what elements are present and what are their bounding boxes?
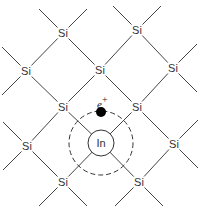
si-atom-label: Si — [21, 141, 33, 152]
si-atom-label: Si — [133, 177, 145, 188]
si-atom-label: Si — [131, 102, 143, 113]
si-atom-label: Si — [167, 63, 179, 74]
si-atom-label: Si — [131, 25, 143, 36]
si-atom-label: Si — [57, 28, 69, 39]
si-atom-label: Si — [57, 177, 69, 188]
si-atom-label: Si — [168, 139, 180, 150]
si-atom-label: Si — [20, 66, 32, 77]
positron-label: e+ — [97, 94, 108, 110]
indium-label: In — [95, 138, 106, 149]
si-atom-label: Si — [94, 65, 106, 76]
silicon-lattice-diagram: SiSiSiSiSiSiSiSiSiSiSi In e+ — [0, 0, 203, 210]
si-atom-label: Si — [57, 102, 69, 113]
